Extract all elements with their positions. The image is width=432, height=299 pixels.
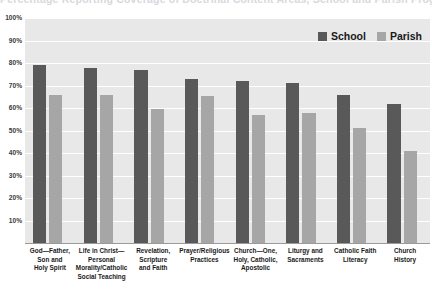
bar-school	[286, 83, 299, 243]
legend-label-school: School	[331, 31, 366, 42]
bar-group	[76, 18, 127, 243]
legend: School Parish	[318, 31, 422, 42]
bar-parish	[151, 109, 164, 243]
bar-school	[33, 65, 46, 243]
bar-group	[177, 18, 228, 243]
bar-group	[25, 18, 76, 243]
bar-parish	[201, 96, 214, 243]
y-axis-tick-label: 20%	[0, 194, 22, 201]
bar-parish	[404, 151, 417, 243]
x-axis-category-label: Revelation,Scriptureand Faith	[128, 247, 178, 299]
bar-school	[236, 81, 249, 243]
y-axis-tick-label: 50%	[0, 127, 22, 134]
legend-item-school: School	[318, 31, 366, 42]
bar-school	[134, 70, 147, 243]
bar-parish	[49, 95, 62, 244]
legend-item-parish: Parish	[377, 31, 422, 42]
y-axis-tick-label: 80%	[0, 59, 22, 66]
y-axis-tick-label: 60%	[0, 104, 22, 111]
y-axis-tick-label: 70%	[0, 82, 22, 89]
x-axis-line	[25, 243, 430, 244]
chart-title: Percentage Reporting Coverage of Doctrin…	[0, 0, 432, 5]
grouped-bar-chart: Percentage Reporting Coverage of Doctrin…	[0, 0, 432, 299]
y-axis-tick-label: 10%	[0, 217, 22, 224]
y-axis-tick-label: 30%	[0, 172, 22, 179]
legend-label-parish: Parish	[390, 31, 422, 42]
x-axis-category-label: God—Father,Son andHoly Spirit	[25, 247, 75, 299]
plot-area: School Parish	[25, 18, 430, 243]
bar-parish	[252, 115, 265, 243]
bar-parish	[353, 128, 366, 243]
chart-title-cropped: Percentage Reporting Coverage of Doctrin…	[0, 0, 432, 13]
bar-group	[278, 18, 329, 243]
bar-school	[337, 95, 350, 244]
x-axis-category-labels: God—Father,Son andHoly SpiritLife in Chr…	[25, 247, 430, 299]
bar-school	[387, 104, 400, 244]
bar-school	[185, 79, 198, 243]
x-axis-category-label: Catholic FaithLiteracy	[330, 247, 380, 299]
x-axis-category-label: Prayer/ReligiousPractices	[178, 247, 230, 299]
x-axis-category-label: Liturgy andSacraments	[280, 247, 330, 299]
bar-group	[379, 18, 430, 243]
y-axis-tick-label: 90%	[0, 37, 22, 44]
x-axis-category-label: Life in Christ—PersonalMorality/Catholic…	[75, 247, 129, 299]
bar-group	[228, 18, 279, 243]
bar-group	[126, 18, 177, 243]
legend-swatch-parish-icon	[377, 32, 386, 41]
bar-group	[329, 18, 380, 243]
legend-swatch-school-icon	[318, 32, 327, 41]
bar-school	[84, 68, 97, 244]
x-axis-category-label: Church—One,Holy, Catholic,Apostolic	[231, 247, 281, 299]
bar-groups	[25, 18, 430, 243]
y-axis-tick-label: 40%	[0, 149, 22, 156]
x-axis-category-label: ChurchHistory	[380, 247, 430, 299]
bar-parish	[302, 113, 315, 244]
bar-parish	[100, 95, 113, 244]
y-axis-tick-label: 100%	[0, 14, 22, 21]
